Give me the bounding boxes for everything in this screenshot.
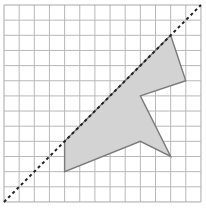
reflection-diagram xyxy=(0,0,206,208)
dashed-mirror-line xyxy=(4,5,201,202)
